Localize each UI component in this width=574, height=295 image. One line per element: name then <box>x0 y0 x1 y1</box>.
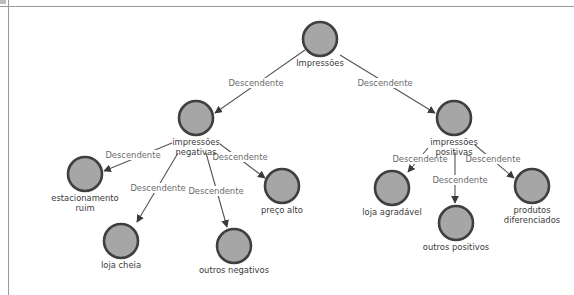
edge-label: Descendente <box>228 78 283 88</box>
node-outpos[interactable]: outros positivos <box>423 206 489 252</box>
node-circle[interactable] <box>515 169 549 203</box>
edge-neg-est: Descendente <box>104 143 172 171</box>
node-cheia[interactable]: loja cheia <box>101 224 141 270</box>
node-circle[interactable] <box>303 22 337 56</box>
node-circle[interactable] <box>179 101 213 135</box>
node-label: ruim <box>75 203 94 213</box>
node-label: positivas <box>435 147 472 157</box>
node-circle[interactable] <box>217 229 251 263</box>
node-circle[interactable] <box>439 206 473 240</box>
node-label: impressões <box>430 137 478 147</box>
edge-label: Descendente <box>432 175 487 185</box>
node-label: Impressões <box>296 58 344 68</box>
node-prod[interactable]: produtosdiferenciados <box>504 169 560 225</box>
edge-label: Descendente <box>188 186 243 196</box>
node-circle[interactable] <box>68 157 102 191</box>
node-label: outros positivos <box>423 242 489 252</box>
node-label: estacionamento <box>51 193 118 203</box>
edge-neg-preco: Descendente <box>212 144 267 178</box>
node-label: produtos <box>513 205 550 215</box>
node-label: diferenciados <box>504 215 560 225</box>
node-circle[interactable] <box>265 169 299 203</box>
edge-label: Descendente <box>105 150 160 160</box>
node-label: outros negativos <box>199 265 269 275</box>
edge-label: Descendente <box>465 154 520 164</box>
node-preco[interactable]: preço alto <box>261 169 303 215</box>
node-label: loja agradável <box>362 207 421 217</box>
node-outneg[interactable]: outros negativos <box>199 229 269 275</box>
edge-root-pos: Descendente <box>340 55 435 113</box>
edge-label: Descendente <box>357 78 412 88</box>
nodes-layer: Impressõesimpressõesnegativasimpressõesp… <box>51 22 560 275</box>
node-label: preço alto <box>261 205 303 215</box>
node-label: loja cheia <box>101 260 141 270</box>
node-circle[interactable] <box>437 101 471 135</box>
node-root[interactable]: Impressões <box>296 22 344 68</box>
tree-diagram: DescendenteDescendenteDescendenteDescend… <box>0 0 574 295</box>
edge-label: Descendente <box>130 183 185 193</box>
node-circle[interactable] <box>104 224 138 258</box>
edge-label: Descendente <box>212 152 267 162</box>
node-neg[interactable]: impressõesnegativas <box>172 101 220 157</box>
edge-neg-outneg: Descendente <box>188 153 243 227</box>
node-est[interactable]: estacionamentoruim <box>51 157 118 213</box>
node-agrad[interactable]: loja agradável <box>362 171 421 217</box>
node-circle[interactable] <box>375 171 409 205</box>
edge-pos-prod: Descendente <box>465 145 520 178</box>
node-label: impressões <box>172 137 220 147</box>
node-pos[interactable]: impressõespositivas <box>430 101 478 157</box>
edge-root-neg: Descendente <box>215 50 305 113</box>
node-label: negativas <box>176 147 217 157</box>
edge-neg-cheia: Descendente <box>130 153 185 222</box>
